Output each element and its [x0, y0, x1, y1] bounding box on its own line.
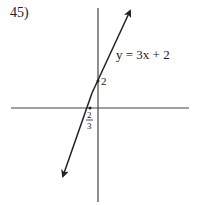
equation-label: y = 3x + 2: [116, 47, 170, 62]
x-intercept-denominator: 3: [87, 121, 92, 131]
graph: y = 3x + 2 2 2 3: [0, 0, 199, 205]
y-intercept-point: [97, 80, 100, 83]
line-y-3x-plus-2-lower: [63, 93, 92, 176]
x-intercept-numerator: 2: [87, 110, 92, 120]
y-intercept-label: 2: [101, 75, 107, 87]
